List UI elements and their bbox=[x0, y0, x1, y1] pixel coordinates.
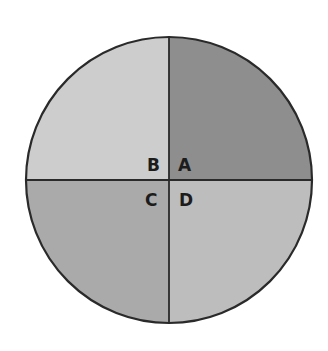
label-c: C bbox=[145, 190, 157, 210]
label-b: B bbox=[147, 155, 160, 175]
quadrant-circle-diagram: B A C D bbox=[0, 0, 328, 351]
label-d: D bbox=[179, 190, 193, 210]
label-a: A bbox=[178, 155, 192, 175]
